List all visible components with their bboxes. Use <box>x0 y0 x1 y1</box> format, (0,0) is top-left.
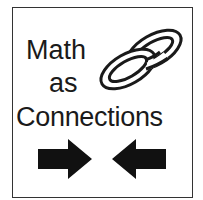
logo-text-as: as <box>49 70 78 97</box>
chain-links-icon <box>96 22 186 96</box>
logo-text-math: Math <box>26 37 86 64</box>
arrows-group <box>36 138 168 180</box>
logo-text-connections: Connections <box>16 104 163 131</box>
arrow-left-icon <box>112 139 166 179</box>
arrow-right-icon <box>38 139 92 179</box>
